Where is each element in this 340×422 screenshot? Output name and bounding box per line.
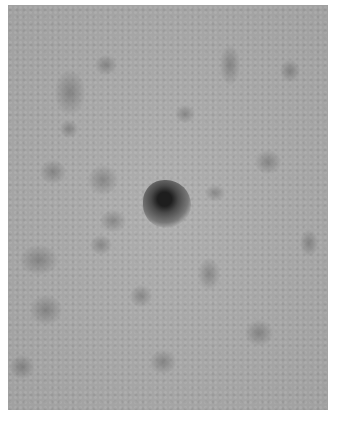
pigmented-lesion — [143, 180, 191, 228]
skin-photograph — [8, 5, 328, 410]
